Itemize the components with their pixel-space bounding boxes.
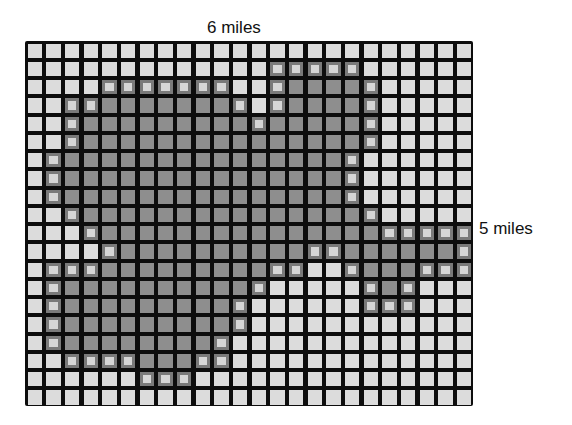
shaded-cell [158, 317, 173, 331]
grid-cell [457, 281, 472, 295]
grid-cell [401, 354, 416, 368]
shaded-cell [196, 336, 211, 350]
grid-cell [252, 62, 267, 76]
shaded-cell [233, 226, 248, 240]
shaded-cell [177, 226, 192, 240]
grid-cell [438, 80, 453, 94]
shaded-cell [214, 226, 229, 240]
grid-cell [438, 299, 453, 313]
shaded-cell [140, 135, 155, 149]
shaded-cell [289, 244, 304, 258]
shaded-cell [233, 135, 248, 149]
shaded-cell [196, 190, 211, 204]
grid-cell [308, 372, 323, 386]
shaded-cell [233, 190, 248, 204]
shaded-cell [102, 317, 117, 331]
shaded-cell [158, 263, 173, 277]
shaded-cell [158, 336, 173, 350]
grid-cell [345, 336, 360, 350]
grid-cell [65, 62, 80, 76]
shaded-cell [270, 153, 285, 167]
grid-cell [28, 208, 43, 222]
grid-cell [28, 263, 43, 277]
grid-cell [326, 299, 341, 313]
shaded-cell [196, 299, 211, 313]
grid-cell [28, 281, 43, 295]
grid-cell [345, 317, 360, 331]
grid-cell [382, 135, 397, 149]
grid-cell [28, 299, 43, 313]
grid-cell [308, 299, 323, 313]
grid-cell [420, 44, 435, 58]
shaded-cell [196, 135, 211, 149]
shaded-cell [364, 98, 379, 112]
shaded-cell [233, 317, 248, 331]
shaded-cell [308, 117, 323, 131]
shaded-cell [382, 226, 397, 240]
grid-cell [438, 372, 453, 386]
grid-cell [270, 336, 285, 350]
shaded-cell [196, 171, 211, 185]
shaded-cell [177, 190, 192, 204]
grid-cell [158, 62, 173, 76]
shaded-cell [252, 153, 267, 167]
shaded-cell [140, 354, 155, 368]
shaded-cell [121, 354, 136, 368]
grid-cell [28, 44, 43, 58]
grid-cell [233, 354, 248, 368]
grid-cell [364, 62, 379, 76]
shaded-cell [121, 336, 136, 350]
shaded-cell [121, 244, 136, 258]
shaded-cell [121, 190, 136, 204]
shaded-cell [65, 263, 80, 277]
shaded-cell [364, 80, 379, 94]
shaded-cell [65, 281, 80, 295]
grid-cell [420, 62, 435, 76]
grid-cell [289, 372, 304, 386]
grid-cell [438, 98, 453, 112]
grid-cell [252, 390, 267, 404]
grid-cell [457, 44, 472, 58]
shaded-cell [121, 80, 136, 94]
shaded-cell [121, 208, 136, 222]
shaded-cell [289, 62, 304, 76]
shaded-cell [196, 263, 211, 277]
grid-cell [84, 372, 99, 386]
grid-cell [28, 317, 43, 331]
grid-cell [401, 153, 416, 167]
shaded-cell [326, 208, 341, 222]
shaded-cell [196, 208, 211, 222]
grid-cell [158, 44, 173, 58]
grid-cell [457, 354, 472, 368]
grid-cell [438, 153, 453, 167]
grid-cell [214, 44, 229, 58]
grid-cell [252, 80, 267, 94]
grid-cell [326, 354, 341, 368]
shaded-cell [196, 281, 211, 295]
shaded-cell [308, 226, 323, 240]
grid-cell [345, 281, 360, 295]
grid-cell [364, 190, 379, 204]
shaded-cell [438, 226, 453, 240]
shaded-cell [345, 80, 360, 94]
grid-cell [364, 171, 379, 185]
grid-cell [270, 390, 285, 404]
grid-cell [438, 281, 453, 295]
grid-cell [28, 336, 43, 350]
shaded-cell [140, 281, 155, 295]
shaded-cell [214, 299, 229, 313]
shaded-cell [121, 299, 136, 313]
grid-cell [28, 117, 43, 131]
shaded-cell [308, 208, 323, 222]
grid-cell [121, 372, 136, 386]
grid-cell [438, 117, 453, 131]
shaded-cell [84, 336, 99, 350]
shaded-cell [102, 299, 117, 313]
grid-cell [84, 390, 99, 404]
grid-cell [401, 117, 416, 131]
grid-cell [308, 263, 323, 277]
grid-cell [420, 208, 435, 222]
shaded-cell [177, 299, 192, 313]
grid-cell [46, 208, 61, 222]
grid-cell [65, 390, 80, 404]
